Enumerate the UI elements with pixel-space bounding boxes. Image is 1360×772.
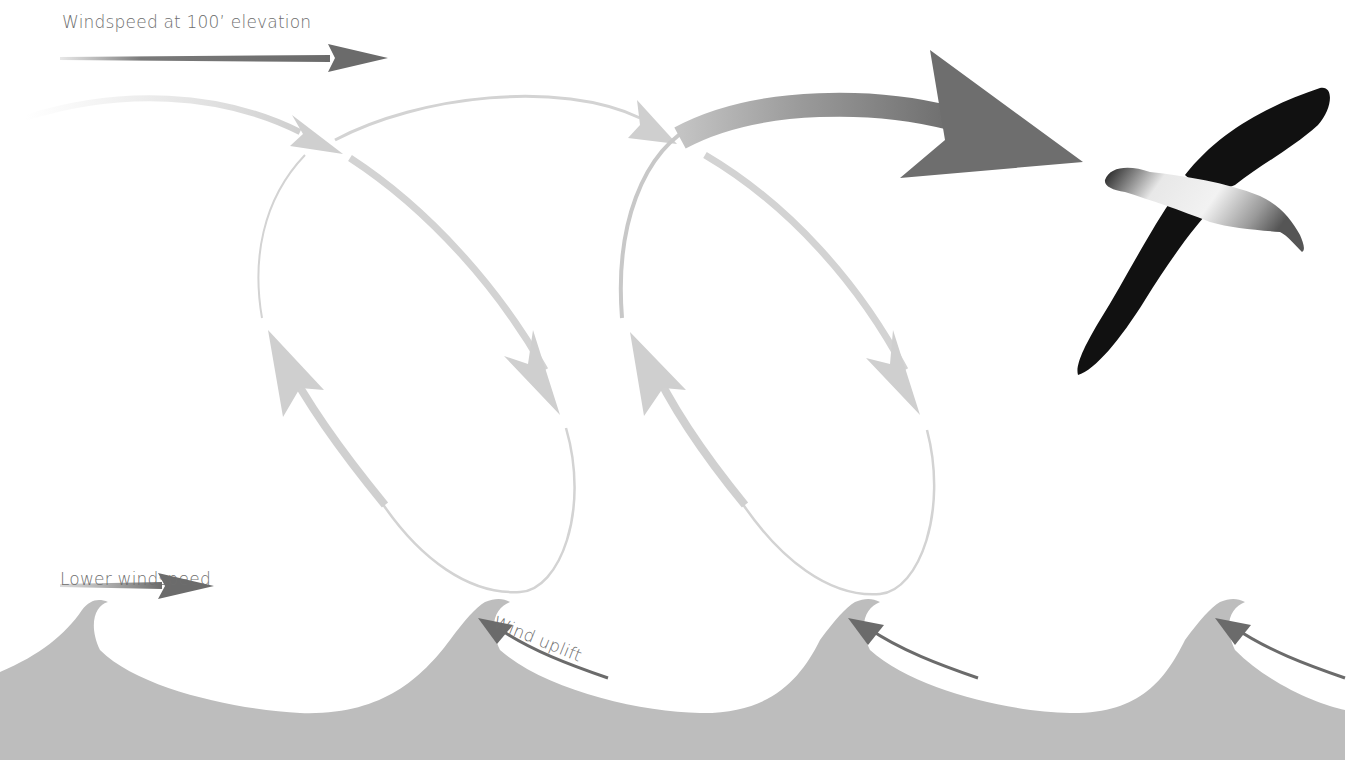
upper-wind-arrow <box>60 44 388 72</box>
incoming-flight-arrow <box>25 98 343 154</box>
lower-windspeed-label: Lower windspeed <box>60 569 211 589</box>
albatross-image <box>1077 88 1329 375</box>
ocean-waves <box>0 599 1345 760</box>
upper-windspeed-label: Windspeed at 100’ elevation <box>62 12 311 32</box>
soaring-diagram <box>0 0 1360 772</box>
flight-loop-1 <box>258 96 677 592</box>
flight-loop-2 <box>621 50 1083 594</box>
